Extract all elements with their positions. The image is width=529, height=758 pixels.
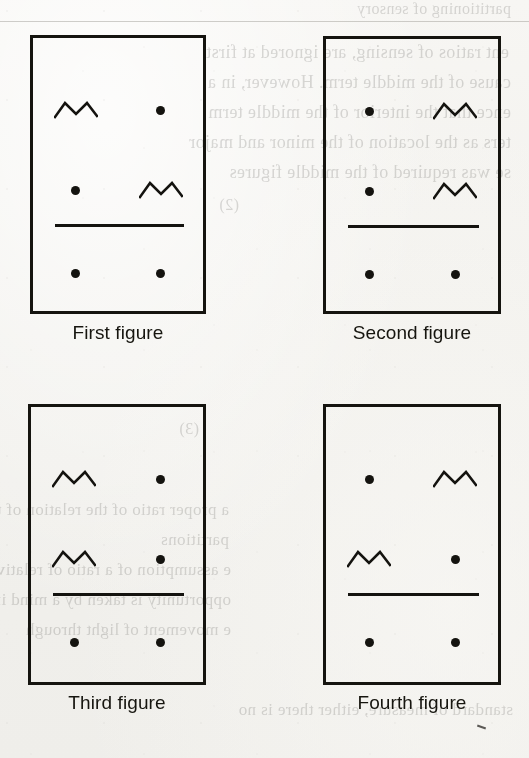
figure-cell-third-figure: Third figure: [28, 0, 206, 758]
dot-icon: [156, 475, 165, 484]
figure-slot-left: [326, 462, 412, 496]
figure-row: [31, 462, 203, 496]
dot-icon: [365, 475, 374, 484]
zigzag-icon: [433, 470, 477, 488]
figure-row: [326, 625, 498, 659]
figure-grid: First figureSecond figureThird figureFou…: [0, 0, 529, 758]
figure-slot-left: [326, 542, 412, 576]
zigzag-icon: [52, 470, 96, 488]
dot-icon: [156, 555, 165, 564]
figure-cell-fourth-figure: Fourth figure: [323, 0, 501, 758]
figure-caption-third-figure: Third figure: [28, 692, 206, 714]
zigzag-icon: [347, 550, 391, 568]
dot-icon: [451, 555, 460, 564]
figure-row: [326, 542, 498, 576]
figure-slot-right: [412, 625, 498, 659]
figure-slot-right: [412, 542, 498, 576]
figure-slot-right: [117, 542, 203, 576]
figure-box-third-figure: [28, 404, 206, 685]
dot-icon: [70, 638, 79, 647]
dot-icon: [365, 638, 374, 647]
figure-row: [31, 542, 203, 576]
figure-caption-fourth-figure: Fourth figure: [323, 692, 501, 714]
figure-row: [326, 462, 498, 496]
figure-slot-left: [31, 625, 117, 659]
figure-box-fourth-figure: [323, 404, 501, 685]
figure-slot-right: [412, 462, 498, 496]
figure-slot-right: [117, 625, 203, 659]
figure-slot-left: [326, 625, 412, 659]
dot-icon: [156, 638, 165, 647]
zigzag-icon: [52, 550, 96, 568]
figure-row: [31, 625, 203, 659]
figure-slot-left: [31, 462, 117, 496]
figure-slot-left: [31, 542, 117, 576]
dot-icon: [451, 638, 460, 647]
figure-divider-line: [53, 593, 184, 596]
figure-slot-right: [117, 462, 203, 496]
figure-divider-line: [348, 593, 479, 596]
